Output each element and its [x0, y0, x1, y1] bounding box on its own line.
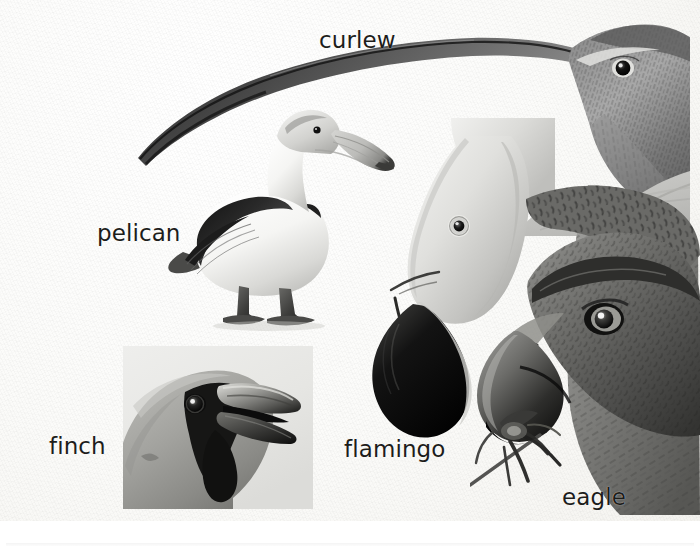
label-flamingo: flamingo [344, 438, 445, 461]
label-eagle: eagle [562, 486, 626, 509]
label-curlew: curlew [319, 29, 396, 52]
page-bottom-rule [6, 543, 694, 546]
bird-beaks-plate: curlew pelican finch flamingo eagle [0, 0, 700, 557]
page-bottom-margin [0, 521, 700, 557]
label-finch: finch [49, 435, 106, 458]
label-pelican: pelican [97, 222, 181, 245]
